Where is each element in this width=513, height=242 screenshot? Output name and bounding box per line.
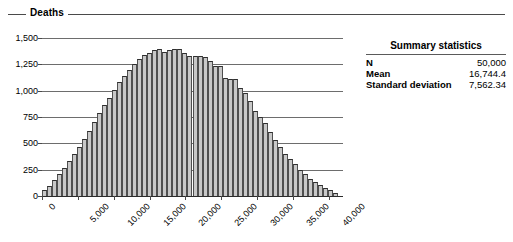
y-axis-tick-label: 750 [0, 113, 38, 122]
x-axis-tick-mark [185, 196, 186, 200]
summary-stat-value: 50,000 [464, 57, 506, 68]
x-axis-tick-label: 20,000 [197, 202, 223, 228]
x-axis-tick-mark [42, 196, 43, 200]
x-axis-tick-mark [221, 196, 222, 200]
summary-row: Standard deviation7,562.34 [366, 79, 506, 90]
plot-area [42, 38, 343, 196]
x-axis-tick-label: 35,000 [305, 202, 331, 228]
x-axis-tick-label: 5,000 [88, 202, 110, 224]
group-legend-label: Deaths [26, 7, 68, 19]
x-axis-tick-label: 15,000 [162, 202, 188, 228]
x-axis-tick-label: 25,000 [233, 202, 259, 228]
x-axis-tick-label: 30,000 [269, 202, 295, 228]
y-axis-tick-label: 1,000 [0, 87, 38, 96]
x-axis-tick-mark [293, 196, 294, 200]
x-axis-tick-mark [78, 196, 79, 200]
group-frame [8, 14, 505, 15]
x-axis-tick-label: 10,000 [126, 202, 152, 228]
summary-stat-label: N [366, 57, 464, 68]
y-axis-labels: 1,5001,2501,0007505002500 [0, 38, 38, 196]
histogram-chart: 1,5001,2501,0007505002500 05,00010,00015… [0, 24, 360, 242]
x-axis-tick-mark [257, 196, 258, 200]
summary-stat-label: Mean [366, 68, 464, 79]
summary-statistics-panel: Summary statistics N50,000Mean16,744.4St… [366, 40, 506, 90]
x-axis-tick-mark [114, 196, 115, 200]
summary-divider [366, 54, 506, 55]
y-axis-tick-label: 0 [0, 192, 38, 201]
histogram-bars [42, 38, 343, 196]
x-axis-tick-label: 40,000 [341, 202, 367, 228]
summary-table: N50,000Mean16,744.4Standard deviation7,5… [366, 57, 506, 90]
y-axis-tick-label: 1,250 [0, 60, 38, 69]
x-axis-tick-mark [329, 196, 330, 200]
x-axis-tick-label: 0 [47, 202, 57, 212]
summary-stat-value: 7,562.34 [464, 79, 506, 90]
y-axis-tick-label: 1,500 [0, 34, 38, 43]
summary-stat-value: 16,744.4 [464, 68, 506, 79]
y-axis-tick-label: 250 [0, 166, 38, 175]
summary-stat-label: Standard deviation [366, 79, 464, 90]
summary-title: Summary statistics [366, 40, 506, 54]
x-axis-line [42, 196, 343, 197]
summary-row: Mean16,744.4 [366, 68, 506, 79]
x-axis-tick-mark [150, 196, 151, 200]
y-axis-tick-label: 500 [0, 139, 38, 148]
summary-row: N50,000 [366, 57, 506, 68]
